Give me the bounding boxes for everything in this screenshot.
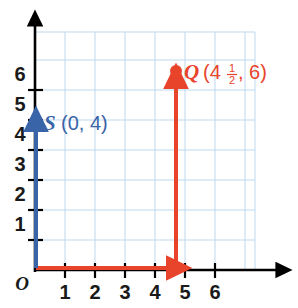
grid-lines <box>35 32 255 270</box>
point-s-name: S <box>44 111 56 135</box>
point-q-fraction-numerator: 1 <box>229 62 235 74</box>
x-tick-label-6: 6 <box>209 281 220 303</box>
coordinate-plane-svg: 6 5 4 3 2 1 1 2 3 4 5 6 O S (0, 4) Q (4 … <box>0 0 298 308</box>
point-s-label-group: S (0, 4) <box>44 111 108 135</box>
y-tick-label-6: 6 <box>14 63 25 85</box>
y-tick-label-2: 2 <box>14 183 25 205</box>
point-q-fraction-denominator: 2 <box>229 74 235 86</box>
y-tick-label-4: 4 <box>14 123 26 145</box>
point-s-coords: (0, 4) <box>61 112 108 134</box>
origin-label: O <box>15 273 29 294</box>
point-q-name: Q <box>184 60 199 84</box>
x-tick-label-5: 5 <box>179 281 190 303</box>
point-q-label-group: Q (4 1 2 , 6) <box>184 60 267 86</box>
y-tick-label-5: 5 <box>14 93 25 115</box>
point-q-coords-close: , 6) <box>238 61 267 83</box>
x-tick-label-1: 1 <box>59 281 70 303</box>
point-s-dot[interactable] <box>30 116 42 128</box>
x-tick-label-2: 2 <box>89 281 100 303</box>
point-q-coords-open: (4 <box>203 61 221 83</box>
coordinate-plane-figure: 6 5 4 3 2 1 1 2 3 4 5 6 O S (0, 4) Q (4 … <box>0 0 298 308</box>
x-tick-label-4: 4 <box>149 281 161 303</box>
x-tick-label-3: 3 <box>119 281 130 303</box>
y-tick-label-3: 3 <box>14 153 25 175</box>
point-q-dot[interactable] <box>170 65 182 77</box>
y-tick-label-1: 1 <box>14 213 25 235</box>
